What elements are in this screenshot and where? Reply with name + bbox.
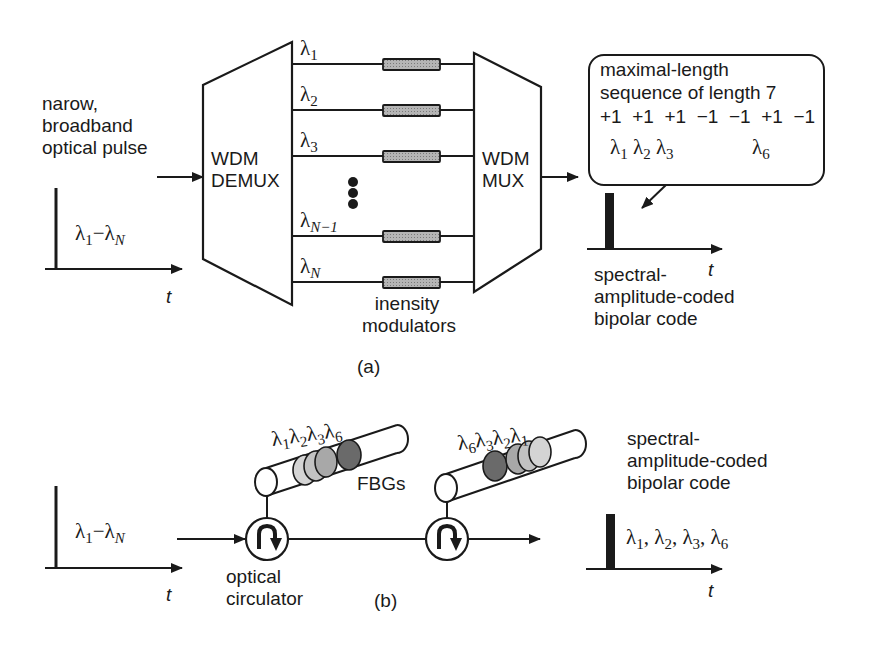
channel-label-n: λN bbox=[300, 255, 320, 277]
callout-line-2: sequence of length 7 bbox=[600, 82, 776, 104]
caption-b: (b) bbox=[374, 590, 397, 612]
channel-label-3: λ3 bbox=[300, 129, 318, 151]
caption-a: (a) bbox=[357, 356, 380, 378]
optical-circulator-1 bbox=[246, 490, 288, 560]
callout-wavelengths-123: λ1 λ2 λ3 bbox=[610, 136, 674, 158]
input-band-label-a: λ1−λN bbox=[75, 222, 125, 244]
input-band-label-b: λ1−λN bbox=[75, 520, 125, 542]
optical-cdma-diagram: narow, broadband optical pulse λ1−λN t W… bbox=[0, 0, 869, 648]
panel-a-output-pulse bbox=[587, 193, 722, 249]
intensity-modulators bbox=[383, 59, 440, 288]
fbg-label: FBGs bbox=[357, 473, 406, 495]
output-wavelengths-b: λ1, λ2, λ3, λ6 bbox=[626, 526, 728, 548]
channel-label-2: λ2 bbox=[300, 83, 318, 105]
callout-sequence: +1 +1 +1 −1 −1 +1 −1 bbox=[600, 106, 815, 128]
demux-label: WDM DEMUX bbox=[211, 148, 280, 192]
output-code-label-a: spectral- amplitude-coded bipolar code bbox=[594, 264, 734, 330]
modulators-label: inensity modulators bbox=[362, 293, 452, 337]
channel-lines bbox=[292, 64, 474, 282]
callout-wavelength-6: λ6 bbox=[752, 136, 770, 158]
callout-pointer bbox=[642, 184, 667, 208]
output-code-label-b: spectral- amplitude-coded bipolar code bbox=[627, 428, 767, 494]
input-pulse-label: narow, broadband optical pulse bbox=[42, 93, 148, 159]
channel-label-1: λ1 bbox=[300, 37, 318, 59]
time-axis-label-b-in: t bbox=[166, 584, 171, 606]
channel-ellipsis-dots bbox=[348, 177, 358, 209]
mux-label: WDM MUX bbox=[482, 148, 529, 192]
channel-label-n-minus-1: λN−1 bbox=[300, 209, 338, 231]
msequence-callout: maximal-length sequence of length 7 +1 +… bbox=[588, 54, 825, 186]
time-axis-label-b-out: t bbox=[708, 580, 713, 602]
circulator-label: optical circulator bbox=[226, 566, 303, 610]
time-axis-label-a-in: t bbox=[166, 286, 171, 308]
callout-line-1: maximal-length bbox=[600, 59, 729, 81]
